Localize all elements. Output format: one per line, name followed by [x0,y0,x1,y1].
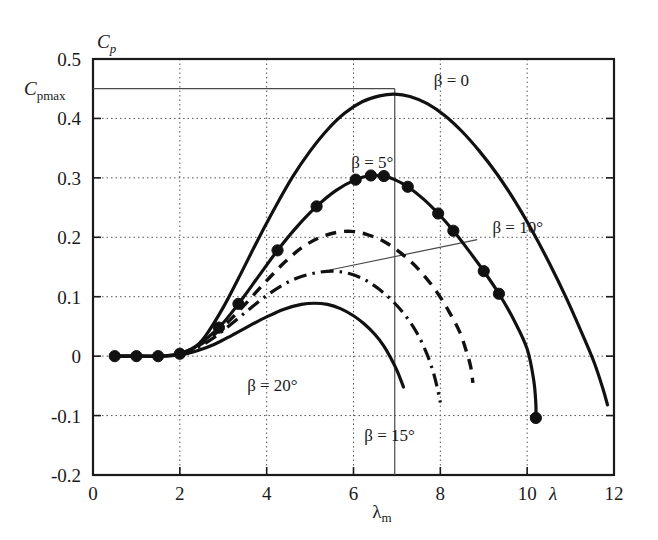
x-tick-label: 8 [436,483,446,504]
x-tick-label: 2 [175,483,185,504]
y-tick-label: 0.2 [57,227,81,248]
cpmax-label: Cpmax [24,78,66,103]
curve-label-beta-3: β = 15° [364,426,415,445]
reference-lines [93,89,477,475]
curve-beta-4 [115,303,404,387]
data-point-marker [233,298,244,309]
data-point-marker [402,181,413,192]
x-tick-label: 6 [349,483,359,504]
data-point-marker [131,351,142,362]
x-tick-label: 0 [88,483,98,504]
data-point-marker [174,348,185,359]
data-point-marker [530,412,541,423]
data-point-marker [311,201,322,212]
y-tick-label: 0.1 [57,287,81,308]
x-tick-label: 10 [518,483,537,504]
data-point-marker [109,351,120,362]
curve-label-beta-0: β = 0 [434,71,469,90]
data-point-marker [272,245,283,256]
y-tick-label: 0 [72,346,82,367]
data-point-marker [350,174,361,185]
cp-vs-lambda-chart: 0246810120.50.40.30.20.10-0.1-0.2 β = 0β… [0,0,658,540]
data-point-marker [493,288,504,299]
curve-label-beta-2: β = 10° [492,218,543,237]
data-point-marker [478,266,489,277]
data-point-marker [153,351,164,362]
y-tick-label: -0.1 [51,406,81,427]
data-point-marker [433,208,444,219]
data-point-marker [448,225,459,236]
x-tick-label: 4 [262,483,272,504]
y-axis-label: Cp [97,31,117,56]
data-point-marker [378,170,389,181]
data-point-marker [213,322,224,333]
y-tick-label: 0.5 [57,49,81,70]
curve-beta-0 [115,94,608,405]
y-tick-label: 0.4 [57,108,81,129]
lambda-m-label: λm [372,501,391,525]
curve-label-beta-4: β = 20° [247,376,298,395]
data-curves [115,94,608,418]
y-tick-label: 0.3 [57,168,81,189]
tick-labels: 0246810120.50.40.30.20.10-0.1-0.2 [51,49,624,504]
x-tick-label: 12 [605,483,624,504]
chart-figure: 0246810120.50.40.30.20.10-0.1-0.2 β = 0β… [0,0,658,540]
x-axis-label: λ [548,483,557,504]
y-tick-label: -0.2 [51,465,81,486]
curve-label-beta-1: β = 5° [351,153,393,172]
